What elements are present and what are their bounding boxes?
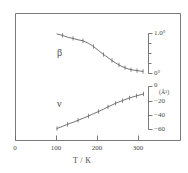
x-tick-label-300: 300: [133, 145, 144, 152]
beta-tick-label-top: 1.0°: [154, 30, 166, 37]
nu-tick-label-20: −20: [154, 98, 165, 105]
nu-curve-label: ν: [57, 99, 62, 109]
nu-tick-label-0: 0: [154, 82, 158, 89]
x-axis-title: T / K: [73, 157, 91, 165]
beta-curve: [57, 33, 143, 73]
nu-right-axis: [149, 87, 153, 130]
x-axis-ticks: [16, 136, 139, 141]
figure-container: β ν 0 100 200 300 T / K 1.0° 0° 0 (Å³) −…: [0, 0, 188, 173]
nu-tick-label-40: −40: [154, 112, 165, 119]
beta-right-axis: [149, 34, 153, 74]
nu-curve-path: [57, 94, 144, 129]
nu-unit-label: (Å³): [159, 89, 169, 95]
x-tick-label-200: 200: [92, 145, 103, 152]
x-tick-label-100: 100: [51, 145, 62, 152]
nu-tick-label-60: −60: [154, 126, 165, 133]
nu-curve: [57, 92, 144, 131]
beta-curve-path: [57, 34, 143, 71]
beta-curve-label: β: [57, 48, 62, 58]
x-tick-label-0: 0: [13, 145, 17, 152]
beta-tick-label-bottom: 0°: [154, 70, 160, 77]
